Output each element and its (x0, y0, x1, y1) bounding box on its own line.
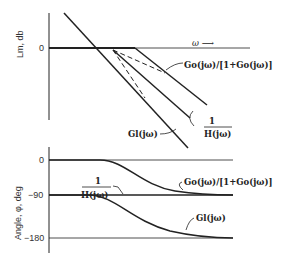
phase-plot: Angle, φ, deg 0 −90 −180 1 H(jω) Go(jω)/… (13, 147, 272, 253)
omega-label: ω ⟶ (192, 38, 214, 48)
bode-diagram: Lm, db 0 ω ⟶ Go(jω)/[1+Go(jω)] 1 H(jω) G… (0, 0, 302, 259)
phase-gl-label: Gl(jω) (196, 213, 226, 223)
dashed-asymptote-1 (113, 50, 165, 73)
go-cl-leader (166, 63, 183, 70)
inverse-h-den: H(jω) (204, 129, 231, 139)
magnitude-plot: Lm, db 0 ω ⟶ Go(jω)/[1+Go(jω)] 1 H(jω) G… (15, 13, 272, 148)
gl-line (64, 13, 188, 148)
phase-inverse-h-leader (113, 186, 123, 194)
phase-inverse-h-den: H(jω) (81, 190, 108, 200)
go-cl-slope (135, 48, 207, 105)
lm-zero-tick: 0 (39, 43, 44, 53)
phase-go-cl-leader (179, 182, 183, 190)
angle-axis-label: Angle, φ, deg (13, 186, 23, 240)
lm-axis-label: Lm, db (15, 30, 25, 58)
inverse-h-num: 1 (209, 116, 215, 126)
go-cl-label: Go(jω)/[1+Go(jω)] (184, 60, 272, 70)
phase-gl-leader (186, 218, 194, 230)
tick-0: 0 (39, 155, 44, 165)
tick-minus-180: −180 (24, 233, 44, 243)
phase-go-cl-label: Go(jω)/[1+Go(jω)] (184, 177, 272, 187)
gl-label: Gl(jω) (128, 129, 158, 139)
phase-inverse-h-num: 1 (95, 176, 101, 186)
tick-minus-90: −90 (28, 190, 43, 200)
inverse-h-leader (190, 111, 194, 126)
